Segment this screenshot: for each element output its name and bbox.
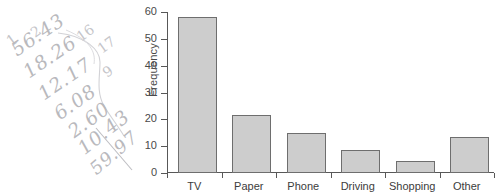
y-axis-tick: 30 bbox=[161, 93, 167, 94]
y-axis-tick-label: 0 bbox=[151, 166, 157, 178]
bar bbox=[450, 137, 489, 173]
handwritten-mark: 9 bbox=[99, 62, 116, 80]
figure-page: 1 2 16 17 9 56.43 18.26 12.17 6.08 2.60 … bbox=[0, 0, 499, 196]
y-axis-tick: 10 bbox=[161, 146, 167, 147]
x-axis-tick bbox=[440, 173, 441, 178]
y-axis-tick-label: 20 bbox=[145, 112, 157, 124]
x-axis-label: Other bbox=[440, 180, 495, 192]
x-axis-tick bbox=[494, 173, 495, 178]
y-axis-tick-label: 50 bbox=[145, 32, 157, 44]
y-axis-tick-label: 60 bbox=[145, 5, 157, 17]
y-axis-tick: 50 bbox=[161, 39, 167, 40]
x-axis-label: Phone bbox=[276, 180, 331, 192]
handwritten-mark: 16 bbox=[73, 21, 97, 44]
x-axis-label: Paper bbox=[222, 180, 277, 192]
bar-chart: Frequency 0102030405060 TVPaperPhoneDriv… bbox=[135, 0, 499, 196]
y-axis-tick-label: 30 bbox=[145, 86, 157, 98]
x-axis-tick bbox=[385, 173, 386, 178]
x-axis-tick bbox=[167, 173, 168, 178]
x-axis-label: Shopping bbox=[385, 180, 440, 192]
bar bbox=[396, 161, 435, 173]
y-axis-line bbox=[167, 12, 168, 173]
bar bbox=[287, 133, 326, 173]
bar bbox=[341, 150, 380, 173]
y-axis-tick: 20 bbox=[161, 119, 167, 120]
y-axis-tick: 60 bbox=[161, 12, 167, 13]
bar bbox=[178, 17, 217, 173]
x-axis-tick bbox=[276, 173, 277, 178]
y-axis-tick-label: 10 bbox=[145, 139, 157, 151]
y-axis-tick: 40 bbox=[161, 66, 167, 67]
x-axis-tick bbox=[331, 173, 332, 178]
bar bbox=[232, 115, 271, 173]
handwritten-mark: 17 bbox=[94, 33, 118, 56]
handwritten-annotations: 1 2 16 17 9 56.43 18.26 12.17 6.08 2.60 … bbox=[0, 0, 135, 196]
x-axis-label: Driving bbox=[331, 180, 386, 192]
x-axis-label: TV bbox=[167, 180, 222, 192]
y-axis-tick-label: 40 bbox=[145, 59, 157, 71]
plot-area: 0102030405060 TVPaperPhoneDrivingShoppin… bbox=[167, 12, 494, 173]
x-axis-tick bbox=[222, 173, 223, 178]
